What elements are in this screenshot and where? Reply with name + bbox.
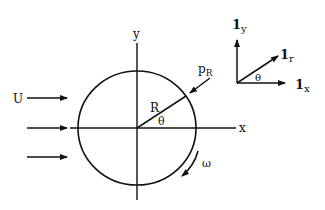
angle-label: θ [158,115,165,128]
unit-x-sub: x [304,83,310,94]
pressure-label-sub: R [206,68,213,78]
unit-x-main: 1 [295,77,304,92]
unit-y-main: 1 [232,17,241,32]
unit-y-sub: y [240,23,247,34]
free-stream-arrows [27,98,67,157]
pressure-arrow [190,78,210,93]
unit-r-label: 1r [280,47,294,64]
radius-label: R [150,101,160,115]
rotation-label: ω [202,157,211,170]
unit-y-label: 1y [232,17,247,34]
x-axis-label: x [239,121,246,135]
y-axis-label: y [132,27,140,41]
unit-x-label: 1x [295,77,310,94]
free-stream-label: U [13,92,23,106]
pressure-label: pR [198,62,213,78]
unit-r-main: 1 [280,47,289,62]
unit-r-sub: r [289,53,294,64]
unit-angle-label: θ [255,72,261,83]
cylinder-flow-diagram: U x y R θ pR ω 1y 1r 1x θ [0,0,325,210]
